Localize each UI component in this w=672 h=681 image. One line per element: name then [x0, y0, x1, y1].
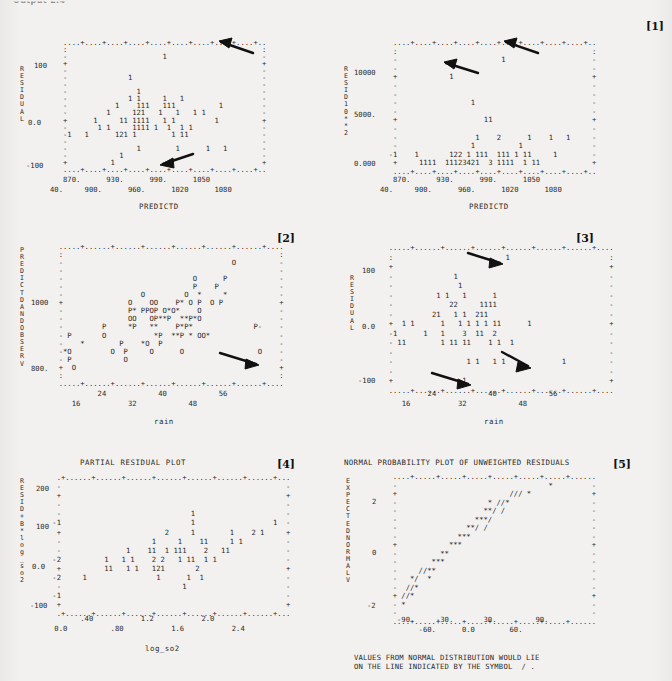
panel-3-predicted-observed-vs-rain: PREDICTD AND OBSERV 1000 800. .....+....… — [6, 235, 326, 400]
panel-5-ytick-neg100: -100 — [30, 602, 47, 609]
panel-4-arrow-bottom-right — [500, 350, 545, 374]
panel-6-ytick-2: 2 — [372, 498, 376, 505]
panel-5-xticks-lower: 0.0 .80 1.6 2.4 — [50, 625, 292, 632]
panel-6-xticks-lower: -60. 0.0 60. — [384, 626, 592, 633]
panel-2-x-axis-label: PREDICTD — [469, 202, 509, 211]
panel-4-ytick-100: 100 — [362, 267, 375, 274]
panel-2-ytick-0: 0.000 — [354, 160, 376, 167]
panel-6-y-axis-label: EXPECTED NORMAL V — [346, 478, 354, 584]
panel-2-plot-body: ....+....+....+....+....+....+....+....+… — [380, 39, 596, 177]
panel-4-y-axis-label: RESIDUAL — [350, 275, 358, 332]
panel-1-ytick-neg100: -100 — [26, 162, 43, 169]
panel-6-title: NORMAL PROBABILITY PLOT OF UNWEIGHTED RE… — [344, 458, 570, 467]
panel-2-arrow-high-1 — [490, 36, 540, 56]
panel-1-ytick-100: 100 — [34, 62, 47, 69]
panel-3-ytick-800: 800. — [31, 365, 48, 372]
panel-5-partial-residual-plot: PARTIAL RESIDUAL PLOT RESID+B*log_so2 20… — [6, 460, 326, 635]
panel-5-title: PARTIAL RESIDUAL PLOT — [80, 458, 186, 467]
panel-2-ytick-10000: 10000 — [354, 69, 376, 76]
panel-4-x-axis-label: rain — [484, 417, 504, 426]
panel-5-x-axis-label: log_so2 — [145, 644, 180, 653]
panel-5-badge: [4] — [277, 458, 295, 471]
panel-6-xticks-upper: -90. -30. 30. 90. — [384, 616, 592, 623]
panel-5-plot-body: .+......+......+......+......+......+...… — [48, 473, 290, 619]
panel-1-arrow-low — [145, 150, 195, 170]
panel-1-xticks-lower: 40. 900. 960. 1020 1080 — [50, 186, 266, 193]
panel-6-badge: [5] — [613, 458, 631, 471]
panel-1-ytick-0: 0.0 — [28, 119, 41, 126]
panel-5-xticks-upper: .40 1.2 2.0 — [50, 615, 292, 622]
panel-2-y-axis-label: RESID 10 * * 2 — [344, 66, 352, 137]
panel-3-xticks-lower: 16 32 48 — [50, 400, 284, 407]
panel-3-badge: [2] — [277, 232, 295, 245]
panel-6-normal-probability-plot: NORMAL PROBABILITY PLOT OF UNWEIGHTED RE… — [336, 460, 666, 675]
panel-1-xticks-upper: 870. 930. 990. 1050 — [50, 176, 266, 183]
panel-6-ytick-0: 0 — [372, 549, 376, 556]
panel-3-ytick-1000: 1000 — [31, 299, 48, 306]
panel-6-plot-body: ....+.....+.....+.....+.....+.....+.....… — [384, 473, 596, 626]
panel-4-xticks-lower: 16 32 48 — [380, 400, 614, 407]
panel-3-arrow-right-outlier — [218, 350, 274, 370]
panel-2-ytick-5000: 5000. — [354, 111, 376, 118]
panel-4-ytick-neg100: -100 — [358, 377, 375, 384]
panel-4-badge: [3] — [576, 232, 594, 245]
panel-4-ytick-0: 0.0 — [362, 323, 375, 330]
panel-6-footnote: VALUES FROM NORMAL DISTRIBUTION WOULD LI… — [354, 653, 540, 671]
panel-2-xticks-upper: 870. 930. 990. 1050 — [380, 176, 596, 183]
panel-4-xticks-upper: 24 40 56 — [380, 390, 614, 397]
panel-4-arrow-top — [466, 250, 518, 270]
panel-2-arrow-high-2 — [430, 58, 480, 78]
panel-5-y-axis-label: RESID+B*log_so2 — [20, 478, 28, 584]
panel-1-x-axis-label: PREDICTD — [139, 202, 179, 211]
panel-1-arrow-high — [205, 36, 255, 56]
panel-2-xticks-lower: 40. 900. 960. 1020 1080 — [380, 186, 596, 193]
panel-1-y-axis-label: RESIDUAL — [20, 66, 30, 123]
panel-5-ytick-0: 0.0 — [32, 563, 45, 570]
panel-3-y-axis-label: PREDICTD AND OBSERV — [20, 247, 28, 368]
panel-4-arrow-bottom — [430, 370, 486, 390]
panel-3-xticks-upper: 24 40 56 — [50, 390, 284, 397]
panel-6-ytick-neg2: -2 — [367, 602, 376, 609]
panel-3-x-axis-label: rain — [154, 417, 174, 426]
